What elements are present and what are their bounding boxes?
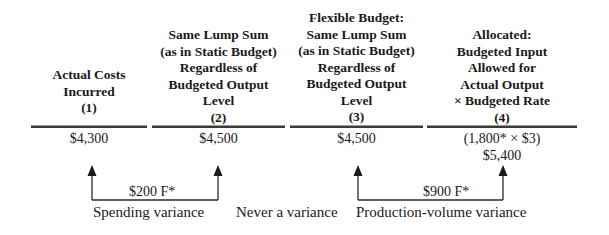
- never-a-variance-label: Never a variance: [236, 203, 338, 221]
- production-volume-variance-amount: $900 F*: [423, 184, 469, 200]
- arrow-up-icon: [354, 165, 363, 176]
- arrow-up-icon: [88, 165, 97, 176]
- arrow-up-icon: [499, 165, 508, 176]
- production-volume-variance-label: Production-volume variance: [356, 203, 526, 221]
- arrow-up-icon: [214, 165, 223, 176]
- spending-variance-label: Spending variance: [93, 203, 204, 221]
- spending-variance-amount: $200 F*: [129, 184, 175, 200]
- variance-arrows: [0, 0, 609, 235]
